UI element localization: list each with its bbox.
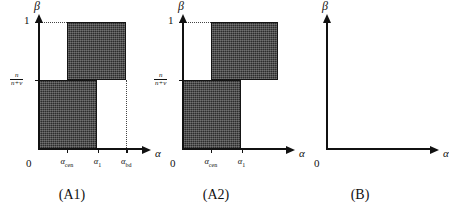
y-tick-one-a2 bbox=[179, 22, 184, 23]
frac-denominator-a2: n+ν bbox=[154, 79, 167, 87]
y-tick-label-frac-a1: n n+ν bbox=[10, 72, 23, 88]
y-tick-label-one-a2: 1 bbox=[168, 15, 174, 26]
y-axis-label-b: β bbox=[322, 0, 328, 12]
y-axis-label-a1: β bbox=[34, 0, 40, 12]
x-axis-label-b: α bbox=[443, 148, 449, 159]
origin-label-a2: 0 bbox=[170, 158, 176, 169]
y-tick-one-a1 bbox=[35, 22, 40, 23]
alpha-subscript: 1 bbox=[98, 162, 101, 168]
alpha-subscript: cen bbox=[65, 162, 73, 168]
panel-caption-a1: (A1) bbox=[0, 188, 144, 202]
x-tick-label-alpha-1-a2: α1 bbox=[238, 157, 245, 168]
y-axis-b bbox=[326, 22, 328, 150]
y-tick-label-one-a1: 1 bbox=[24, 15, 30, 26]
y-axis-a2 bbox=[182, 22, 184, 150]
shaded-region-upper-band-a1 bbox=[67, 22, 127, 80]
x-tick-label-alpha-bd-a1: αbd bbox=[121, 157, 131, 168]
alpha-subscript: bd bbox=[126, 162, 132, 168]
shaded-region-lower-block-a2 bbox=[183, 80, 242, 150]
x-axis-b bbox=[326, 148, 430, 150]
x-tick-alpha-cen-a1 bbox=[67, 148, 68, 153]
origin-label-b: 0 bbox=[314, 158, 320, 169]
x-tick-alpha-cen-a2 bbox=[211, 148, 212, 153]
frac-numerator-a2: n bbox=[154, 72, 167, 79]
x-axis-a2 bbox=[182, 148, 286, 150]
frac-numerator-a1: n bbox=[10, 72, 23, 79]
x-tick-label-alpha-cen-a2: αcen bbox=[204, 157, 217, 168]
y-axis-a1 bbox=[38, 22, 40, 150]
panel-a1: β α 1 n n+ν 0 αcen α1 αbd (A1) bbox=[0, 0, 144, 220]
x-tick-alpha-1-a1 bbox=[98, 148, 99, 153]
x-tick-label-alpha-1-a1: α1 bbox=[94, 157, 101, 168]
y-tick-frac-a1 bbox=[35, 80, 40, 81]
shaded-region-lower-block-a1 bbox=[39, 80, 98, 150]
guide-line-alpha-bd-a1 bbox=[126, 80, 127, 150]
panel-caption-a2: (A2) bbox=[144, 188, 288, 202]
shaded-region-upper-band-a2 bbox=[211, 22, 278, 80]
panel-b: β α 0 (B) bbox=[288, 0, 432, 220]
y-tick-label-frac-a2: n n+ν bbox=[154, 72, 167, 88]
y-tick-frac-a2 bbox=[179, 80, 184, 81]
x-tick-alpha-1-a2 bbox=[242, 148, 243, 153]
x-tick-alpha-bd-a1 bbox=[126, 148, 127, 153]
panel-caption-b: (B) bbox=[288, 188, 432, 202]
plot-area-b: β α 0 bbox=[326, 22, 422, 150]
x-tick-label-alpha-cen-a1: αcen bbox=[60, 157, 73, 168]
y-axis-arrow-icon-b bbox=[323, 14, 331, 23]
plot-area-a1: β α 1 n n+ν 0 αcen α1 αbd bbox=[38, 22, 134, 150]
y-axis-label-a2: β bbox=[178, 0, 184, 12]
frac-denominator-a1: n+ν bbox=[10, 79, 23, 87]
panel-a2: β α 1 n n+ν 0 αcen α1 (A2) bbox=[144, 0, 288, 220]
origin-label-a1: 0 bbox=[26, 158, 32, 169]
alpha-subscript: cen bbox=[209, 162, 217, 168]
plot-area-a2: β α 1 n n+ν 0 αcen α1 bbox=[182, 22, 278, 150]
x-axis-arrow-icon-b bbox=[430, 146, 439, 154]
alpha-subscript: 1 bbox=[242, 162, 245, 168]
